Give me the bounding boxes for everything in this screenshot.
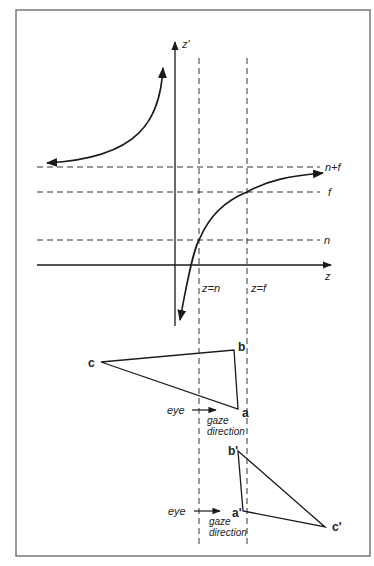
horizontal-asymptotes [37, 167, 320, 240]
transformed-triangle [238, 451, 325, 527]
vertical-axis-label: z' [181, 38, 191, 50]
asymptote-label-f: f [328, 186, 332, 198]
horizontal-axis-label: z [324, 270, 331, 282]
guide-label-z-eq-n: z=n [201, 282, 220, 294]
guide-label-z-eq-f: z=f [250, 282, 267, 294]
diagram-frame [16, 10, 370, 556]
vertex-label-c: c [88, 356, 95, 370]
gaze-label-2b: direction [209, 527, 247, 538]
gaze-label-1a: gaze [207, 415, 229, 426]
vertex-label-c-prime: c' [332, 520, 342, 534]
asymptote-label-n: n [324, 234, 330, 246]
asymptote-label-n-plus-f: n+f [325, 161, 342, 173]
eye-label-2: eye [168, 505, 186, 517]
gaze-label-2a: gaze [209, 516, 231, 527]
vertex-label-b: b [238, 340, 245, 354]
eye-label-1: eye [167, 404, 185, 416]
curve-right-branch [180, 173, 323, 320]
vertex-label-b-prime: b' [228, 444, 238, 458]
vertex-label-a: a [242, 406, 249, 420]
gaze-label-1b: direction [207, 426, 245, 437]
vertex-label-a-prime: a' [232, 506, 242, 520]
original-triangle [101, 350, 238, 409]
curve-left-branch [47, 68, 163, 163]
diagram-canvas: z' z n+f f n z=n z=f a b c eye gaze dire… [0, 0, 374, 566]
